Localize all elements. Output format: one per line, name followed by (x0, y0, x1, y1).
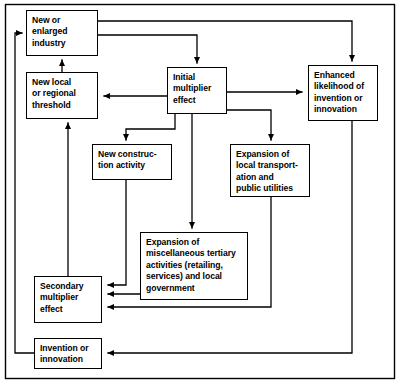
edge-initial-multiplier-to-new-construction (126, 114, 175, 140)
node-label: New or enlarged industry (32, 15, 93, 49)
edge-industry-to-enhanced-likelihood (98, 21, 352, 61)
node-invention-or-innovation[interactable]: Invention or innovation (34, 338, 102, 369)
edge-industry-to-initial-multiplier (98, 35, 197, 63)
node-label: Enhanced likelihood of invention or inno… (314, 70, 373, 116)
node-secondary-multiplier-effect[interactable]: Secondary multiplier effect (34, 276, 102, 323)
node-enhanced-likelihood-of-invention-or-innovation[interactable]: Enhanced likelihood of invention or inno… (308, 65, 378, 121)
node-expansion-of-miscellaneous-tertiary-activities[interactable]: Expansion of miscellaneous tertiary acti… (140, 232, 248, 300)
node-new-or-enlarged-industry[interactable]: New or enlarged industry (26, 10, 98, 56)
flowchart-diagram: New or enlarged industry New local or re… (0, 0, 400, 384)
node-label: Invention or innovation (40, 343, 97, 366)
node-label: Expansion of miscellaneous tertiary acti… (146, 237, 243, 294)
node-label: Initial multiplier effect (173, 72, 222, 106)
node-label: Expansion of local transport- ation and … (236, 149, 305, 195)
connector-lines-layer (0, 0, 400, 384)
edge-new-construction-to-secondary-multiplier (108, 180, 126, 285)
node-label: Secondary multiplier effect (40, 281, 97, 315)
node-new-construction-activity[interactable]: New construc- tion activity (92, 144, 172, 180)
edge-initial-multiplier-to-transportation (227, 110, 271, 140)
node-label: New construc- tion activity (98, 149, 167, 172)
node-label: New local or regional threshold (32, 77, 93, 111)
node-new-local-or-regional-threshold[interactable]: New local or regional threshold (26, 72, 98, 119)
node-initial-multiplier-effect[interactable]: Initial multiplier effect (167, 67, 227, 114)
node-expansion-of-local-transportation-and-public-utilities[interactable]: Expansion of local transport- ation and … (230, 144, 310, 197)
